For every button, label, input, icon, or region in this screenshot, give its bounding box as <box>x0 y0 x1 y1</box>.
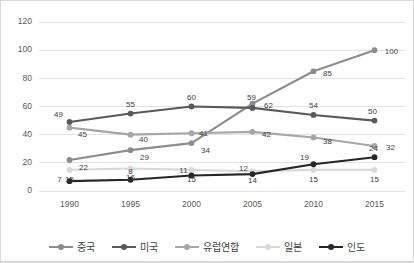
chart-legend: 중국미국유럽연합일본인도 <box>1 239 413 254</box>
data-point-label: 100 <box>385 47 399 56</box>
data-point-label: 49 <box>54 110 63 119</box>
data-point-marker <box>67 167 73 173</box>
data-point-label: 40 <box>139 135 148 144</box>
legend-dot <box>328 244 334 250</box>
data-point-label: 8 <box>128 167 133 176</box>
data-point-marker <box>372 118 378 124</box>
data-point-label: 15 <box>309 175 318 184</box>
legend-swatch-icon <box>175 242 199 252</box>
data-point-marker <box>250 105 256 111</box>
y-axis-tick-label: 20 <box>23 157 33 167</box>
data-point-label: 38 <box>323 137 332 146</box>
data-point-marker <box>372 47 378 53</box>
x-axis-tick-label: 1990 <box>60 199 79 209</box>
legend-label: 중국 <box>77 239 95 254</box>
series-line-일본 <box>70 168 375 171</box>
data-point-label: 15 <box>65 175 74 184</box>
data-point-marker <box>311 112 317 118</box>
data-point-marker <box>372 154 378 160</box>
legend-dot <box>184 244 190 250</box>
data-point-marker <box>311 167 317 173</box>
data-point-label: 42 <box>262 130 271 139</box>
data-point-marker <box>250 129 256 135</box>
data-point-label: 59 <box>247 93 256 102</box>
data-point-label: 15 <box>370 175 379 184</box>
legend-label: 일본 <box>284 239 302 254</box>
legend-dot <box>265 244 271 250</box>
data-point-marker <box>189 140 195 146</box>
x-axis-tick-label: 2000 <box>182 199 201 209</box>
data-point-label: 11 <box>179 166 188 175</box>
legend-swatch-icon <box>319 242 343 252</box>
x-axis-tick-label: 2015 <box>365 199 384 209</box>
x-axis-tick-label: 1995 <box>121 199 140 209</box>
data-point-marker <box>311 135 317 141</box>
data-point-marker <box>128 147 134 153</box>
data-point-label: 15 <box>187 175 196 184</box>
legend-swatch-icon <box>112 242 136 252</box>
data-point-marker <box>67 125 73 131</box>
legend-dot <box>58 244 64 250</box>
data-point-marker <box>311 161 317 167</box>
legend-item-인도[interactable]: 인도 <box>319 239 365 254</box>
data-point-label: 7 <box>57 175 62 184</box>
y-axis-tick-label: 80 <box>23 73 33 83</box>
legend-swatch-icon <box>256 242 280 252</box>
legend-item-중국[interactable]: 중국 <box>49 239 95 254</box>
bottom-divider <box>1 261 413 262</box>
data-point-marker <box>189 130 195 136</box>
data-point-marker <box>372 167 378 173</box>
legend-label: 미국 <box>140 239 158 254</box>
data-point-label: 54 <box>309 101 318 110</box>
data-point-marker <box>67 157 73 163</box>
data-point-label: 34 <box>201 146 210 155</box>
x-axis-tick-label: 2005 <box>243 199 262 209</box>
y-axis-tick-label: 40 <box>23 129 33 139</box>
legend-item-미국[interactable]: 미국 <box>112 239 158 254</box>
data-point-label: 12 <box>239 164 248 173</box>
data-point-marker <box>67 119 73 125</box>
data-point-marker <box>311 68 317 74</box>
y-axis-tick-label: 0 <box>27 185 32 195</box>
data-point-label: 22 <box>79 163 88 172</box>
data-point-label: 55 <box>126 100 135 109</box>
data-point-label: 29 <box>140 153 149 162</box>
data-point-marker <box>189 104 195 110</box>
data-point-marker <box>128 132 134 138</box>
data-point-label: 32 <box>386 143 395 152</box>
data-point-label: 45 <box>78 130 87 139</box>
data-point-label: 24 <box>369 144 378 153</box>
data-point-label: 62 <box>264 101 273 110</box>
data-point-label: 50 <box>368 107 377 116</box>
legend-item-일본[interactable]: 일본 <box>256 239 302 254</box>
line-chart-plot: 0204060801001201990199520002005201020152… <box>1 1 414 263</box>
data-point-label: 41 <box>199 129 208 138</box>
y-axis-tick-label: 120 <box>18 16 32 26</box>
legend-item-유럽연합[interactable]: 유럽연합 <box>175 239 239 254</box>
data-point-label: 14 <box>248 176 257 185</box>
data-point-label: 60 <box>187 93 196 102</box>
data-point-label: 19 <box>300 153 309 162</box>
y-axis-tick-label: 60 <box>23 101 33 111</box>
data-point-label: 85 <box>323 69 332 78</box>
legend-label: 인도 <box>347 239 365 254</box>
x-axis-tick-label: 2010 <box>304 199 323 209</box>
series-line-미국 <box>70 107 375 122</box>
data-point-marker <box>128 111 134 117</box>
y-axis-tick-label: 100 <box>18 44 32 54</box>
legend-swatch-icon <box>49 242 73 252</box>
legend-label: 유럽연합 <box>203 239 239 254</box>
legend-dot <box>121 244 127 250</box>
data-point-marker <box>189 167 195 173</box>
chart-container: 0204060801001201990199520002005201020152… <box>0 0 414 263</box>
